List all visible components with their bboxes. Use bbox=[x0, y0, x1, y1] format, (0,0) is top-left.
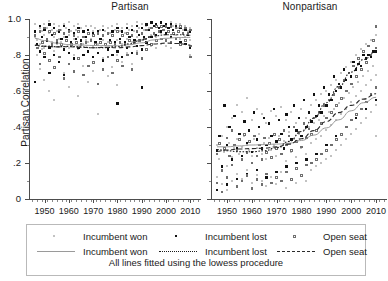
x-minor-tick bbox=[224, 200, 225, 202]
x-minor-tick bbox=[66, 200, 67, 202]
x-minor-tick bbox=[369, 200, 370, 202]
x-tick-mark bbox=[301, 200, 302, 203]
x-minor-tick bbox=[62, 200, 63, 202]
legend-line-swatch bbox=[37, 251, 75, 252]
x-minor-tick bbox=[274, 200, 275, 202]
x-minor-tick bbox=[144, 200, 145, 202]
x-minor-tick bbox=[81, 200, 82, 202]
x-minor-tick bbox=[134, 200, 135, 202]
x-minor-tick bbox=[264, 200, 265, 202]
x-tick-mark bbox=[190, 200, 191, 203]
x-tick-label: 1990 bbox=[316, 206, 336, 216]
legend-swatch bbox=[293, 235, 296, 238]
x-minor-tick bbox=[289, 200, 290, 202]
y-tick-label: .8 bbox=[13, 50, 21, 60]
x-minor-tick bbox=[364, 200, 365, 202]
y-tick-label: .4 bbox=[13, 122, 21, 132]
x-minor-tick bbox=[130, 200, 131, 202]
panel-title-partisan: Partisan bbox=[60, 1, 200, 12]
x-tick-label: 1980 bbox=[107, 206, 127, 216]
x-minor-tick bbox=[379, 200, 380, 202]
x-minor-tick bbox=[71, 200, 72, 202]
x-minor-tick bbox=[159, 200, 160, 202]
x-minor-tick bbox=[42, 200, 43, 202]
legend-line-swatch bbox=[159, 251, 197, 252]
x-minor-tick bbox=[234, 200, 235, 202]
x-tick-mark bbox=[93, 200, 94, 203]
y-tick-mark bbox=[207, 127, 211, 128]
x-tick-mark bbox=[227, 200, 228, 203]
x-minor-tick bbox=[319, 200, 320, 202]
x-minor-tick bbox=[105, 200, 106, 202]
x-minor-tick bbox=[244, 200, 245, 202]
legend-label: Incumbent won bbox=[83, 229, 147, 244]
lowess-curves bbox=[212, 19, 386, 199]
x-tick-label: 1950 bbox=[35, 206, 55, 216]
x-minor-tick bbox=[125, 200, 126, 202]
x-tick-label: 2010 bbox=[180, 206, 200, 216]
x-tick-label: 1950 bbox=[217, 206, 237, 216]
x-minor-tick bbox=[374, 200, 375, 202]
x-minor-tick bbox=[76, 200, 77, 202]
y-tick-label: 0 bbox=[16, 194, 21, 204]
y-axis-ticks: 0.2.4.6.81.0 bbox=[0, 0, 27, 281]
plot-area-nonpartisan bbox=[212, 19, 386, 199]
x-minor-tick bbox=[110, 200, 111, 202]
x-minor-tick bbox=[164, 200, 165, 202]
x-tick-label: 1960 bbox=[59, 206, 79, 216]
x-minor-tick bbox=[324, 200, 325, 202]
x-tick-mark bbox=[351, 200, 352, 203]
x-minor-tick bbox=[294, 200, 295, 202]
x-minor-tick bbox=[214, 200, 215, 202]
legend-marker-hollow-square bbox=[275, 229, 315, 244]
x-tick-mark bbox=[376, 200, 377, 203]
x-minor-tick bbox=[299, 200, 300, 202]
y-minor-tick bbox=[209, 109, 212, 110]
x-minor-tick bbox=[120, 200, 121, 202]
lowess-line-solid bbox=[35, 37, 190, 45]
x-minor-tick bbox=[249, 200, 250, 202]
figure: Partisan Nonpartisan Partisan Correlatio… bbox=[0, 0, 388, 281]
x-minor-tick bbox=[91, 200, 92, 202]
lowess-curves bbox=[30, 19, 200, 199]
x-minor-tick bbox=[178, 200, 179, 202]
x-tick-mark bbox=[45, 200, 46, 203]
x-minor-tick bbox=[52, 200, 53, 202]
x-minor-tick bbox=[149, 200, 150, 202]
x-tick-mark bbox=[277, 200, 278, 203]
y-tick-mark bbox=[207, 55, 211, 56]
y-tick-mark bbox=[207, 91, 211, 92]
panel-title-nonpartisan: Nonpartisan bbox=[255, 1, 365, 12]
x-tick-label: 1970 bbox=[83, 206, 103, 216]
x-minor-tick bbox=[344, 200, 345, 202]
y-tick-label: .6 bbox=[13, 86, 21, 96]
x-minor-tick bbox=[314, 200, 315, 202]
x-minor-tick bbox=[32, 200, 33, 202]
y-tick-mark bbox=[25, 163, 29, 164]
x-tick-label: 2000 bbox=[341, 206, 361, 216]
x-tick-mark bbox=[117, 200, 118, 203]
x-minor-tick bbox=[100, 200, 101, 202]
legend-marker-black-dot bbox=[157, 229, 197, 244]
y-tick-mark bbox=[25, 19, 29, 20]
x-minor-tick bbox=[139, 200, 140, 202]
lowess-line-solid bbox=[217, 97, 376, 147]
x-tick-mark bbox=[166, 200, 167, 203]
y-minor-tick bbox=[27, 73, 30, 74]
x-minor-tick bbox=[47, 200, 48, 202]
x-minor-tick bbox=[183, 200, 184, 202]
y-minor-tick bbox=[27, 145, 30, 146]
x-minor-tick bbox=[349, 200, 350, 202]
y-tick-mark bbox=[25, 199, 29, 200]
legend-label: Open seat bbox=[323, 229, 367, 244]
x-tick-mark bbox=[142, 200, 143, 203]
x-minor-tick bbox=[198, 200, 199, 202]
x-minor-tick bbox=[279, 200, 280, 202]
legend-note: All lines fitted using the lowess proced… bbox=[27, 257, 365, 268]
legend-swatch bbox=[175, 235, 177, 237]
x-minor-tick bbox=[86, 200, 87, 202]
legend-marker-row: Incumbent wonIncumbent lostOpen seat bbox=[27, 229, 365, 244]
x-minor-tick bbox=[57, 200, 58, 202]
y-tick-mark bbox=[25, 55, 29, 56]
y-tick-mark bbox=[207, 199, 211, 200]
